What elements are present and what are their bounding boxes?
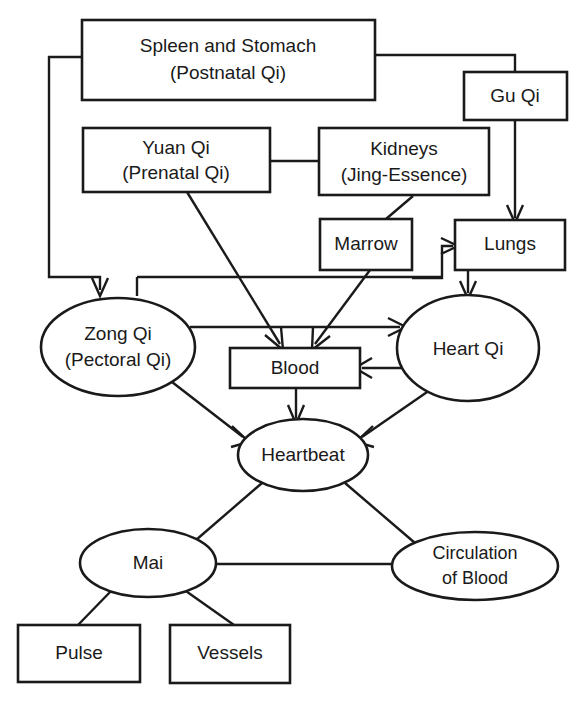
node-pulse-label: Pulse bbox=[55, 642, 103, 663]
node-heartbeat-label: Heartbeat bbox=[261, 444, 345, 465]
node-gu-qi[interactable]: Gu Qi bbox=[464, 72, 567, 120]
edge-marrow-to-blood-arrowhead bbox=[312, 327, 330, 350]
edge-spleen-to-guqi bbox=[375, 55, 515, 72]
node-heartbeat[interactable]: Heartbeat bbox=[238, 419, 368, 491]
node-kidneys[interactable]: Kidneys (Jing-Essence) bbox=[319, 128, 489, 195]
node-marrow[interactable]: Marrow bbox=[320, 219, 412, 270]
edge-yuanqi-to-blood-arrowhead bbox=[265, 327, 283, 350]
node-kidneys-label-line2: (Jing-Essence) bbox=[341, 164, 468, 185]
node-lungs[interactable]: Lungs bbox=[455, 220, 565, 270]
node-spleen-and-stomach-label-line2: (Postnatal Qi) bbox=[170, 62, 286, 83]
edge-mai-to-vessels bbox=[183, 589, 234, 625]
edge-marrow-to-blood bbox=[315, 270, 370, 344]
edge-heartqi-to-heartbeat bbox=[362, 390, 430, 437]
edge-mai-to-pulse bbox=[78, 589, 113, 625]
node-mai[interactable]: Mai bbox=[80, 529, 216, 597]
node-zong-qi-label-line1: Zong Qi bbox=[84, 323, 152, 344]
node-heart-qi-label: Heart Qi bbox=[433, 338, 504, 359]
node-heart-qi[interactable]: Heart Qi bbox=[397, 295, 539, 401]
node-marrow-label: Marrow bbox=[334, 233, 398, 254]
node-yuan-qi-label-line2: (Prenatal Qi) bbox=[122, 162, 230, 183]
node-mai-label: Mai bbox=[133, 552, 164, 573]
node-blood[interactable]: Blood bbox=[230, 348, 360, 388]
qi-blood-flowchart: Spleen and Stomach (Postnatal Qi) Gu Qi … bbox=[0, 0, 579, 702]
node-lungs-label: Lungs bbox=[484, 233, 536, 254]
node-pulse[interactable]: Pulse bbox=[18, 625, 140, 682]
edge-kidneys-to-marrow bbox=[386, 196, 413, 219]
node-vessels[interactable]: Vessels bbox=[170, 625, 290, 683]
node-gu-qi-label: Gu Qi bbox=[490, 85, 540, 106]
node-circulation-of-blood-label-line2: of Blood bbox=[442, 568, 508, 588]
node-kidneys-label-line1: Kidneys bbox=[370, 138, 438, 159]
node-zong-qi[interactable]: Zong Qi (Pectoral Qi) bbox=[41, 298, 195, 396]
edge-zongqi-to-heartbeat bbox=[172, 382, 243, 437]
edge-heartbeat-to-circulation bbox=[345, 483, 415, 543]
edge-yuanqi-to-blood bbox=[187, 192, 280, 344]
node-spleen-and-stomach-label-line1: Spleen and Stomach bbox=[140, 35, 316, 56]
node-spleen-and-stomach[interactable]: Spleen and Stomach (Postnatal Qi) bbox=[82, 20, 375, 100]
node-yuan-qi-label-line1: Yuan Qi bbox=[142, 137, 210, 158]
node-yuan-qi[interactable]: Yuan Qi (Prenatal Qi) bbox=[83, 128, 270, 192]
node-vessels-label: Vessels bbox=[197, 642, 262, 663]
node-circulation-of-blood-label-line1: Circulation bbox=[432, 543, 517, 563]
node-zong-qi-label-line2: (Pectoral Qi) bbox=[65, 349, 172, 370]
edge-heartbeat-to-mai bbox=[196, 483, 262, 540]
node-circulation-of-blood[interactable]: Circulation of Blood bbox=[392, 532, 558, 600]
node-blood-label: Blood bbox=[271, 357, 320, 378]
